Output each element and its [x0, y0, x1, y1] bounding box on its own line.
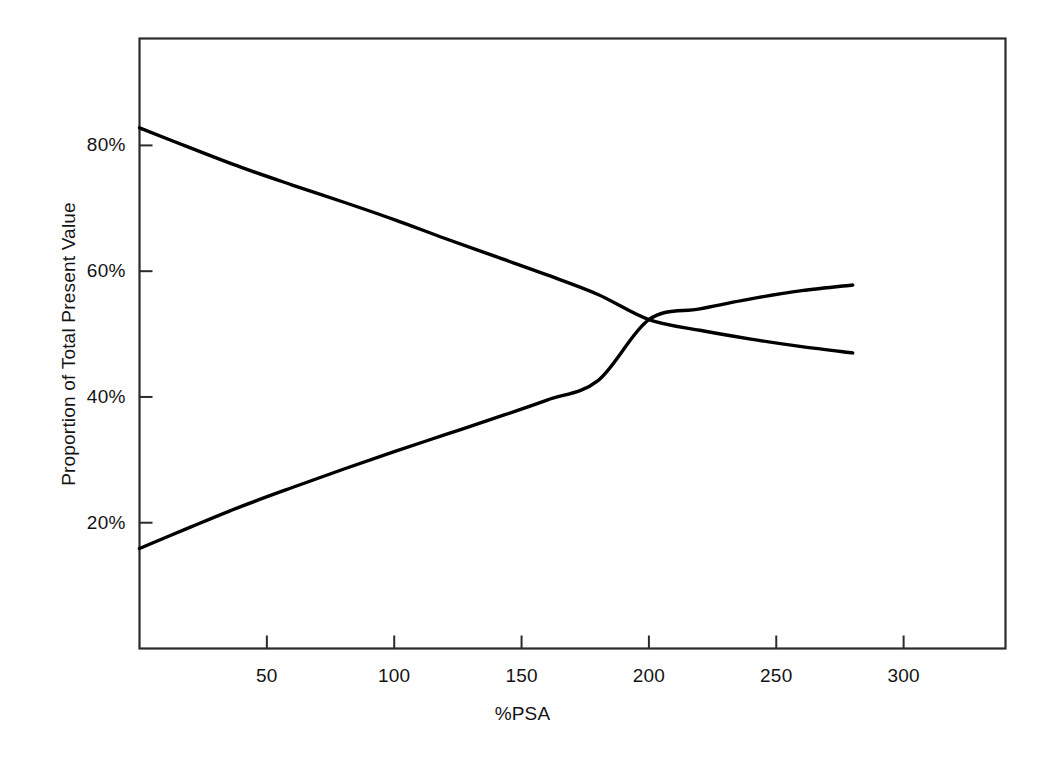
y-tick-label: 20% [87, 512, 126, 534]
y-axis-label: Proportion of Total Present Value [58, 202, 80, 486]
x-tick-label: 50 [256, 665, 278, 687]
y-tick-label: 60% [87, 260, 126, 282]
x-axis-label: %PSA [495, 703, 551, 725]
y-tick-label: 40% [87, 386, 126, 408]
chart-figure: 20%40%60%80% 50100150200250300 Proportio… [0, 0, 1042, 759]
x-tick-label: 100 [378, 665, 410, 687]
x-tick-label: 300 [887, 665, 919, 687]
plot-frame [140, 39, 1006, 649]
y-tick-label: 80% [87, 134, 126, 156]
plot-canvas [0, 0, 1042, 759]
x-tick-label: 250 [760, 665, 792, 687]
x-tick-label: 150 [505, 665, 537, 687]
x-tick-label: 200 [633, 665, 665, 687]
